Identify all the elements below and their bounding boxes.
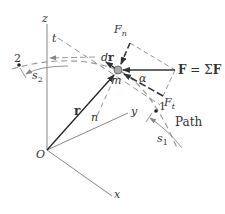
origin-label: O <box>36 148 45 161</box>
sigma-symbol: Σ <box>204 63 212 77</box>
position-vector-label: r <box>74 104 81 118</box>
tangential-force-label: Ft <box>163 96 176 111</box>
dr-r: r <box>108 51 114 64</box>
particle: m <box>111 66 122 87</box>
ft-symbol: F <box>163 96 172 109</box>
parallelogram-right <box>163 70 175 96</box>
x-axis-label: x <box>114 188 121 201</box>
position-vector-r <box>47 75 114 150</box>
path-label: Path <box>175 115 203 129</box>
normal-force-label: Fn <box>113 23 127 38</box>
normal-label: n <box>91 111 98 124</box>
point-1 <box>154 109 158 113</box>
dr-d: d <box>101 51 108 64</box>
mass-label: m <box>111 74 121 87</box>
ft-subscript: t <box>172 102 176 111</box>
fn-symbol: F <box>113 23 122 36</box>
resultant-force-label: F = ΣF <box>178 63 222 77</box>
point-2-label: 2 <box>14 52 21 65</box>
equals-sign: = <box>187 63 205 77</box>
displacement-label: dr <box>101 51 114 64</box>
force-components: Fn Ft α <box>113 23 176 111</box>
parallelogram-top <box>130 43 175 70</box>
y-axis <box>47 113 128 150</box>
f-bold-2: F <box>213 63 222 77</box>
arc-s1-tick <box>146 113 152 122</box>
position-vector: r <box>47 75 114 150</box>
resultant-force: F = ΣF <box>123 63 222 77</box>
arc-s1-label: s1 <box>157 132 168 147</box>
angle-alpha-label: α <box>139 72 147 85</box>
s2-subscript: 2 <box>38 75 43 84</box>
fn-subscript: n <box>122 29 127 38</box>
work-energy-diagram: z y x O 2 1 Path s1 s2 t n <box>0 0 225 214</box>
y-axis-label: y <box>130 105 138 118</box>
path-points: 2 1 Path s1 s2 <box>14 52 203 147</box>
z-axis-label: z <box>41 12 48 25</box>
arc-s2-tick <box>20 68 26 78</box>
particle-mass <box>114 66 122 74</box>
normal-force-vector <box>121 43 130 64</box>
x-axis <box>47 150 112 196</box>
s1-subscript: 1 <box>163 138 168 147</box>
arc-s2-label: s2 <box>32 69 43 84</box>
tangent-label: t <box>52 32 57 45</box>
